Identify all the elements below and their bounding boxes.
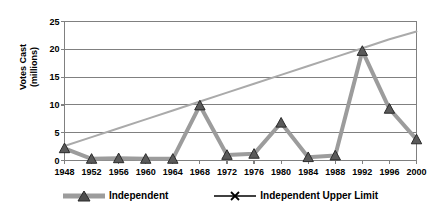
y-tick-label: 5	[38, 128, 60, 138]
legend-label-independent-upper-limit: Independent Upper Limit	[260, 190, 378, 202]
chart-container: Votes Cast (millions) 0510152025 1948195…	[0, 0, 441, 215]
triangle-marker-icon	[63, 189, 105, 203]
legend-item-independent-upper-limit[interactable]: Independent Upper Limit	[214, 189, 378, 203]
chart-legend: Independent Independent Upper Limit	[0, 183, 441, 209]
legend-label-independent: Independent	[109, 190, 168, 202]
y-tick-label: 15	[38, 72, 60, 82]
legend-item-independent[interactable]: Independent	[63, 189, 168, 203]
y-tick-label: 25	[38, 17, 60, 27]
y-tick-label: 10	[38, 100, 60, 110]
gridlines	[65, 22, 417, 133]
x-tick-label: 2000	[400, 167, 434, 177]
y-tick-label: 20	[38, 44, 60, 54]
x-marker-icon	[214, 189, 256, 203]
y-tick-label: 0	[38, 156, 60, 166]
axis-lines	[65, 22, 417, 161]
